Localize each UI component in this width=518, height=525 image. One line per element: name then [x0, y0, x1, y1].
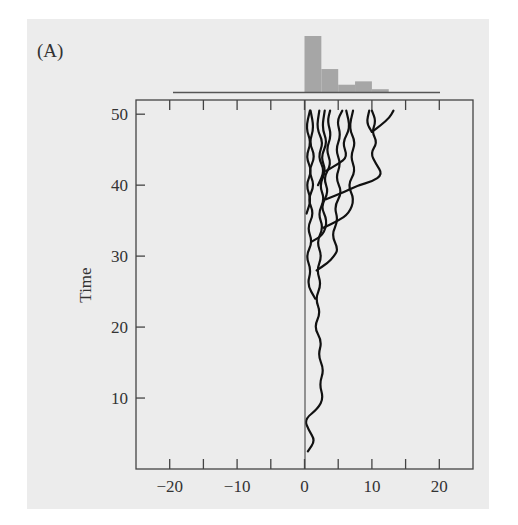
y-tick-label: 30: [111, 247, 128, 266]
histogram-bar: [338, 85, 355, 92]
trajectory-line: [326, 111, 381, 200]
histogram-bar: [355, 81, 372, 92]
y-axis-label: Time: [76, 267, 95, 302]
random-walk-chart: (A) −20−1001020 1020304050 Time: [0, 0, 518, 525]
x-tick-label: 10: [363, 477, 380, 496]
histogram-bar: [321, 69, 338, 92]
trajectories: [306, 111, 393, 452]
x-tick-label: −20: [156, 477, 183, 496]
y-tick-label: 10: [111, 389, 128, 408]
panel-label: (A): [37, 40, 63, 62]
x-tick-label: −10: [224, 477, 251, 496]
y-tick-label: 40: [111, 176, 128, 195]
x-tick-label: 20: [431, 477, 448, 496]
x-axis-ticks: −20−1001020: [156, 100, 447, 496]
marginal-histogram: [305, 36, 389, 92]
histogram-bar: [305, 36, 322, 92]
y-tick-label: 20: [111, 318, 128, 337]
trajectory-line: [367, 111, 371, 132]
y-tick-label: 50: [111, 105, 128, 124]
histogram-bar: [372, 89, 389, 92]
x-tick-label: 0: [300, 477, 309, 496]
y-axis-ticks: 1020304050: [111, 105, 145, 408]
